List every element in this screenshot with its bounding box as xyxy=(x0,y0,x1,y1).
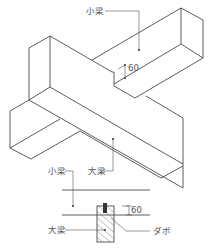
isometric-view xyxy=(10,8,203,188)
iso-big-beam-label: 大梁 xyxy=(88,166,106,176)
iso-dim-label: 60 xyxy=(128,63,139,73)
section-big-beam-label: 大梁 xyxy=(48,225,66,235)
dowel-label: ダボ xyxy=(153,226,171,236)
beam-joint-diagram: 小梁 60 大梁 小梁 60 大梁 ダボ xyxy=(0,0,215,251)
iso-small-beam-label: 小梁 xyxy=(86,6,104,16)
section-small-beam-label: 小梁 xyxy=(48,166,66,176)
section-dim-label: 60 xyxy=(131,205,142,215)
